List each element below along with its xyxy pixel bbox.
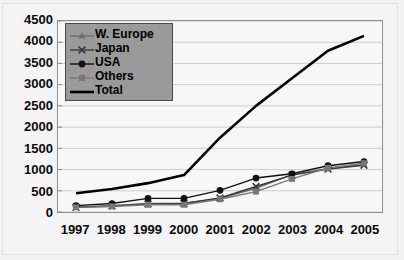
legend-item[interactable]: W. Europe [69,27,168,41]
y-axis-tick-label: 0 [5,207,53,219]
legend-item[interactable]: Total [69,83,168,97]
y-axis-tick-labels: 050010001500200025003000350040004500 [0,20,53,213]
data-point-marker [79,61,86,68]
data-point-marker [217,196,223,202]
data-point-marker [289,176,295,182]
y-axis-tick-label: 1000 [5,164,53,176]
data-point-marker [253,175,260,182]
y-axis-tick-label: 2000 [5,121,53,133]
y-axis-tick-label: 500 [5,186,53,198]
x-axis-tick-label: 2004 [314,222,343,237]
line-chart: 050010001500200025003000350040004500 199… [0,0,404,260]
legend-marker-icon [69,56,95,68]
y-axis-tick-label: 4500 [5,14,53,26]
x-axis-tick-label: 2003 [278,222,307,237]
legend-item[interactable]: Others [69,69,168,83]
data-point-marker [73,204,79,210]
data-point-marker [181,195,188,202]
y-axis-tick-label: 2500 [5,100,53,112]
legend-item-label: Others [95,70,134,82]
x-axis-tick-labels: 199719981999200020012002200320042005 [57,222,383,244]
legend-item-label: Total [95,84,123,96]
x-axis-tick-label: 1999 [133,222,162,237]
y-axis-tick-label: 3500 [5,57,53,69]
x-axis-tick-label: 2002 [242,222,271,237]
x-axis-tick-label: 1998 [97,222,126,237]
data-point-marker [361,160,367,166]
legend-item[interactable]: Japan [69,41,168,55]
data-point-marker [145,195,152,202]
data-point-marker [217,187,224,194]
data-point-marker [325,165,331,171]
x-axis-tick-label: 1997 [61,222,90,237]
legend-marker-icon [69,70,95,82]
x-axis-tick-label: 2001 [206,222,235,237]
data-point-marker [145,202,151,208]
legend-marker-icon [69,42,95,54]
chart-legend: W. EuropeJapanUSAOthersTotal [65,23,173,101]
x-axis-tick-label: 2005 [350,222,379,237]
data-point-marker [253,189,259,195]
data-point-marker [79,75,85,81]
x-axis-tick-label: 2000 [169,222,198,237]
legend-item[interactable]: USA [69,55,168,69]
data-point-marker [109,204,115,210]
legend-item-label: USA [95,56,120,68]
y-axis-tick-label: 4000 [5,35,53,47]
data-point-marker [181,202,187,208]
legend-marker-icon [69,28,95,40]
legend-item-label: Japan [95,42,130,54]
legend-item-label: W. Europe [95,28,154,40]
y-axis-tick-label: 1500 [5,143,53,155]
legend-marker-icon [69,84,95,96]
y-axis-tick-label: 3000 [5,78,53,90]
